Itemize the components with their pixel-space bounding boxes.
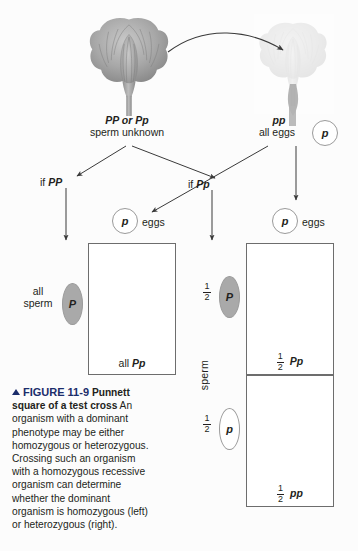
parent-flower-recessive: [254, 14, 334, 126]
offspring-frac-den-top: 2: [277, 363, 284, 373]
punnett-box-left: [88, 243, 176, 375]
sperm-allele-left: P: [69, 298, 76, 310]
offspring-genotype-right-top: Pp: [290, 355, 303, 367]
offspring-frac-num-bottom: 1: [277, 484, 284, 495]
parent-left-genotype-label: PP or Pp: [72, 114, 182, 126]
parent-right-gamete-note: all eggs: [244, 126, 310, 138]
sperm-allele-right-top: P: [226, 291, 233, 303]
offspring-frac-num-top: 1: [277, 352, 284, 363]
sperm-label-left: all sperm: [16, 285, 60, 309]
sperm-frac-num-bottom: 1: [203, 414, 210, 425]
sperm-oval-left: P: [62, 283, 83, 325]
offspring-genotype-right-bottom: pp: [290, 487, 303, 499]
arrow-to-if-pp2: [132, 146, 215, 178]
figure-number: FIGURE 11-9: [23, 386, 89, 398]
sperm-oval-right-top: P: [219, 276, 240, 318]
offspring-frac-den-bottom: 2: [277, 495, 284, 505]
sperm-fraction-left: all: [33, 285, 44, 297]
parent-left-genotype: PP or Pp: [105, 114, 148, 126]
offspring-fraction-left: all: [119, 357, 130, 369]
parent-right-genotype-label: pp: [250, 114, 308, 126]
branch-label-left: if PP: [40, 176, 94, 188]
parent-right-genotype: pp: [273, 114, 286, 126]
offspring-label-left: all Pp: [88, 357, 176, 369]
egg-label-right: eggs: [302, 216, 325, 228]
figure-panel: PP or Pp sperm unknown pp all eggs p if …: [0, 0, 358, 551]
sperm-allele-right-bottom: p: [226, 423, 233, 435]
offspring-label-right-top: 1 2 Pp: [246, 352, 334, 372]
offspring-genotype-left: Pp: [132, 357, 145, 369]
sperm-oval-right-bottom: p: [219, 408, 240, 450]
egg-label-left: eggs: [142, 216, 165, 228]
figure-body: An organism with a dominant phenotype ma…: [12, 400, 148, 530]
sperm-fraction-right-bottom: 1 2: [198, 414, 216, 434]
parent-left-gamete-note: sperm unknown: [72, 126, 182, 138]
figure-caption: FIGURE 11-9 Punnett square of a test cro…: [12, 386, 152, 531]
parent-right-egg-allele: p: [322, 127, 329, 139]
branch-label-left-genotype: PP: [48, 176, 62, 188]
pollen-arrow: [168, 33, 283, 52]
egg-allele-left: p: [122, 215, 129, 227]
triangle-icon: [12, 389, 20, 395]
branch-label-right: if Pp: [188, 178, 242, 190]
sperm-word-left: sperm: [23, 297, 52, 309]
parent-right-egg-circle: p: [312, 120, 338, 146]
egg-allele-right: p: [282, 215, 289, 227]
sperm-axis-label-right: sperm: [198, 360, 210, 390]
egg-circle-right: p: [272, 208, 298, 234]
parent-flower-dominant: [90, 18, 168, 116]
offspring-label-right-bottom: 1 2 pp: [246, 484, 334, 504]
sperm-frac-den-top: 2: [203, 293, 210, 303]
arrow-to-if-pp: [77, 146, 126, 176]
branch-label-right-genotype: Pp: [196, 178, 209, 190]
sperm-frac-den-bottom: 2: [203, 425, 210, 435]
sperm-fraction-right-top: 1 2: [198, 282, 216, 302]
egg-circle-left: p: [112, 208, 138, 234]
sperm-frac-num-top: 1: [203, 282, 210, 293]
